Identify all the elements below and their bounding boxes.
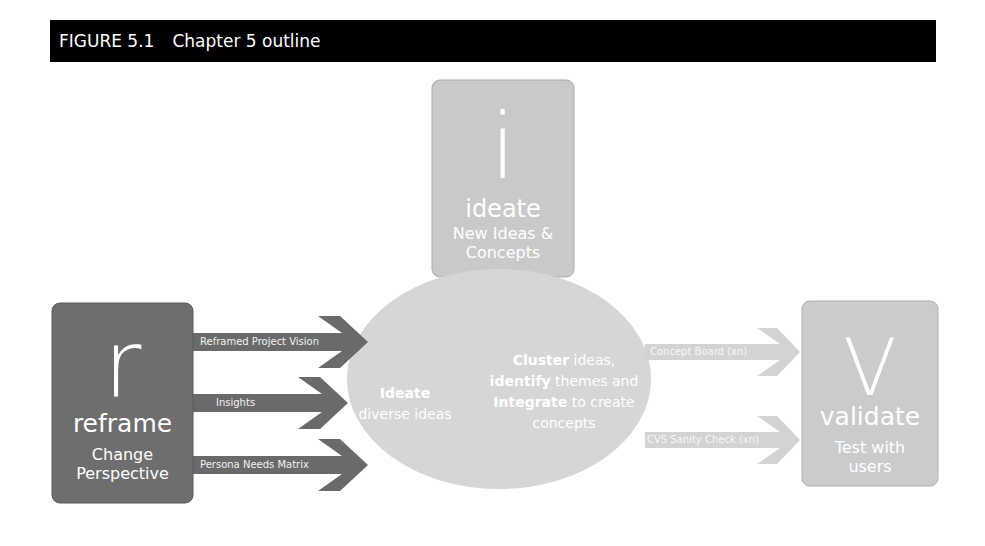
center-left-rest: diverse ideas: [358, 406, 451, 422]
center-right-text: Cluster ideas, identify themes and Integ…: [482, 350, 646, 434]
ideate-letter: i: [432, 104, 574, 190]
output-label-cvs-sanity-check: CVS Sanity Check (xn): [647, 434, 759, 445]
validate-subtitle-1: Test with: [802, 438, 938, 457]
reframe-letter: r: [52, 322, 193, 408]
ideate-subtitle-1: New Ideas &: [432, 224, 574, 243]
center-left-text: Ideate diverse ideas: [350, 383, 460, 425]
validate-title: validate: [802, 404, 938, 430]
ideate-subtitle-2: Concepts: [432, 243, 574, 262]
center-left-bold: Ideate: [380, 385, 430, 401]
output-label-concept-board: Concept Board (xn): [650, 346, 747, 357]
ideate-title: ideate: [432, 196, 574, 222]
input-label-reframed-project-vision: Reframed Project Vision: [200, 336, 319, 347]
center-right-line1-rest: ideas,: [569, 352, 615, 368]
reframe-subtitle-1: Change: [52, 445, 193, 464]
center-right-line2-rest: themes and: [551, 373, 639, 389]
center-right-line2-bold: identify: [490, 373, 551, 389]
input-label-insights: Insights: [216, 397, 255, 408]
reframe-title: reframe: [52, 411, 193, 437]
validate-subtitle-2: users: [802, 457, 938, 476]
center-right-line3-rest: to create: [567, 394, 634, 410]
reframe-subtitle-2: Perspective: [52, 464, 193, 483]
center-right-line3-bold: Integrate: [493, 394, 567, 410]
center-right-line4: concepts: [532, 415, 595, 431]
input-label-persona-needs-matrix: Persona Needs Matrix: [200, 459, 309, 470]
validate-letter: V: [802, 325, 938, 411]
center-right-line1-bold: Cluster: [513, 352, 569, 368]
